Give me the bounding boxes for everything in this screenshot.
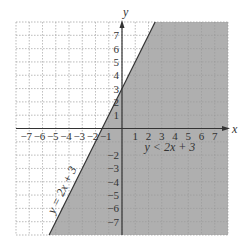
y-tick-label: −3 [107, 162, 119, 174]
inequality-graph: −7−6−5−4−3−2−11234567−7−6−5−4−3−21234567… [0, 0, 248, 249]
x-tick-label: −6 [34, 130, 46, 142]
y-tick-label: 7 [114, 29, 120, 41]
y-tick-label: 6 [114, 43, 120, 55]
x-tick-label: −3 [73, 130, 85, 142]
x-axis-label: x [231, 122, 238, 136]
y-tick-label: −4 [107, 176, 119, 188]
y-tick-label: −5 [107, 189, 119, 201]
x-tick-label: −1 [100, 130, 112, 142]
y-tick-label: 2 [114, 96, 120, 108]
y-axis-label: y [122, 5, 129, 19]
y-tick-label: 4 [114, 69, 120, 81]
x-tick-label: −4 [60, 130, 72, 142]
y-tick-label: −6 [107, 202, 119, 214]
region-inequality-label: y < 2x + 3 [144, 140, 196, 154]
x-tick-label: 7 [212, 130, 218, 142]
x-tick-label: −2 [87, 130, 99, 142]
x-tick-label: −7 [20, 130, 32, 142]
y-axis-arrow-icon [120, 20, 125, 28]
x-tick-label: −5 [47, 130, 59, 142]
y-tick-label: 5 [114, 56, 120, 68]
y-tick-label: 1 [114, 109, 120, 121]
x-tick-label: 1 [133, 130, 139, 142]
x-tick-label: 6 [199, 130, 205, 142]
y-tick-label: −7 [107, 216, 119, 228]
y-tick-label: 3 [114, 83, 120, 95]
y-tick-label: −2 [107, 149, 119, 161]
